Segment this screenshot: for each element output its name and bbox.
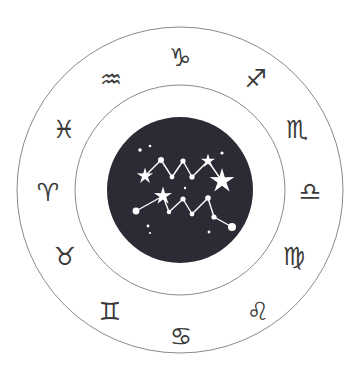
star-dot (228, 223, 236, 231)
zodiac-glyph-aquarius[interactable]: ♒ (100, 65, 122, 94)
star-dot (205, 195, 211, 201)
star-dot (158, 157, 164, 163)
zodiac-glyph-capricorn[interactable]: ♑ (169, 43, 191, 72)
star-dot (189, 174, 194, 179)
star-dot (149, 145, 152, 148)
star-dot (180, 196, 185, 201)
star-dot (147, 225, 150, 228)
star-dot (208, 231, 211, 234)
zodiac-wheel-figure: ♑♒♓♈♉♊♋♌♍♎♏♐ (0, 0, 362, 382)
star-dot (220, 151, 223, 154)
star-dot (190, 212, 195, 217)
star-dot (138, 148, 142, 152)
zodiac-glyph-cancer[interactable]: ♋ (170, 322, 192, 351)
zodiac-glyph-aries[interactable]: ♈ (37, 178, 59, 207)
star-dot (170, 175, 175, 180)
zodiac-glyph-sagittarius[interactable]: ♐ (245, 64, 267, 93)
star-dot (133, 208, 140, 215)
zodiac-glyph-scorpio[interactable]: ♏ (286, 115, 308, 144)
night-sky-disc (107, 117, 253, 263)
zodiac-wheel-canvas: ♑♒♓♈♉♊♋♌♍♎♏♐ (0, 0, 362, 382)
zodiac-glyph-leo[interactable]: ♌ (247, 297, 269, 326)
star-dot (211, 214, 216, 219)
zodiac-glyph-gemini[interactable]: ♊ (99, 297, 121, 326)
zodiac-glyph-libra[interactable]: ♎ (299, 177, 321, 206)
zodiac-glyph-taurus[interactable]: ♉ (54, 242, 76, 271)
zodiac-glyph-virgo[interactable]: ♍ (283, 242, 305, 271)
star-dot (149, 232, 151, 234)
zodiac-glyph-pisces[interactable]: ♓ (53, 115, 75, 144)
star-dot (184, 187, 186, 189)
star-dot (180, 158, 185, 163)
star-dot (167, 210, 171, 214)
